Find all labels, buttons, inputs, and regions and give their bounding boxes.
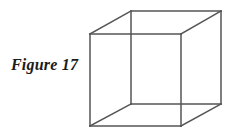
wireframe-cube-illustration: [0, 0, 236, 140]
connector-top-right: [181, 11, 221, 34]
figure-panel: Figure 17: [0, 0, 236, 140]
connector-top-left: [90, 11, 131, 34]
cube-edge-group: [90, 11, 221, 126]
connector-bottom-right: [181, 104, 221, 126]
connector-bottom-left: [90, 104, 131, 126]
